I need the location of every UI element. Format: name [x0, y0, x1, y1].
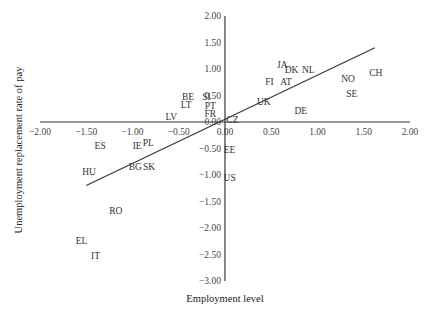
- country-label-it: IT: [91, 251, 100, 261]
- x-tick-label: −2.00: [29, 127, 51, 137]
- y-axis-title: Unemployment replacement rate of pay: [13, 66, 24, 234]
- country-label-no: NO: [341, 74, 355, 84]
- scatter-chart: −2.00−1.50−1.00−0.500.000.501.001.502.00…: [0, 0, 430, 316]
- y-axis: 2.001.501.000.500.00−0.50−1.00−1.50−2.00…: [199, 11, 225, 286]
- country-label-hu: HU: [82, 167, 96, 177]
- country-label-es: ES: [95, 141, 106, 151]
- country-label-ro: RO: [109, 206, 122, 216]
- country-label-lv: LV: [165, 112, 177, 122]
- x-tick-label: 1.00: [309, 127, 326, 137]
- y-tick-label: 2.00: [204, 11, 221, 21]
- x-tick-label: 2.00: [402, 127, 419, 137]
- y-tick-label: −2.00: [199, 223, 221, 233]
- x-tick-label: −1.50: [75, 127, 97, 137]
- country-label-ie: IE: [133, 141, 142, 151]
- y-tick-label: 1.00: [204, 64, 221, 74]
- y-tick-label: −1.50: [199, 197, 221, 207]
- country-label-ch: CH: [369, 68, 382, 78]
- country-label-ee: EE: [224, 145, 236, 155]
- x-tick-label: −0.50: [168, 127, 190, 137]
- y-tick-label: −3.00: [199, 276, 221, 286]
- country-label-uk: UK: [257, 97, 271, 107]
- country-label-sk: SK: [143, 162, 155, 172]
- country-label-bg: BG: [129, 162, 142, 172]
- y-tick-label: −0.50: [199, 144, 221, 154]
- data-points: JADKNLFIATNOCHSEUKDEBESILTPTFRLVCZESIEPL…: [76, 60, 383, 261]
- country-label-cz: CZ: [226, 115, 238, 125]
- x-tick-label: 1.50: [355, 127, 372, 137]
- y-tick-label: −1.00: [199, 170, 221, 180]
- country-label-at: AT: [280, 77, 292, 87]
- country-label-pl: PL: [143, 138, 154, 148]
- country-label-nl: NL: [302, 65, 315, 75]
- y-tick-label: 1.50: [204, 38, 221, 48]
- country-label-el: EL: [76, 236, 88, 246]
- country-label-dk: DK: [285, 65, 299, 75]
- x-axis-title: Employment level: [186, 293, 263, 304]
- x-axis: −2.00−1.50−1.00−0.500.000.501.001.502.00: [29, 122, 419, 137]
- country-label-de: DE: [295, 106, 308, 116]
- y-tick-label: −2.50: [199, 250, 221, 260]
- country-label-se: SE: [346, 89, 357, 99]
- country-label-lt: LT: [181, 100, 192, 110]
- country-label-fr: FR: [204, 109, 216, 119]
- x-tick-label: 0.50: [263, 127, 280, 137]
- country-label-us: US: [224, 173, 236, 183]
- x-tick-label: −1.00: [122, 127, 144, 137]
- country-label-fi: FI: [265, 77, 273, 87]
